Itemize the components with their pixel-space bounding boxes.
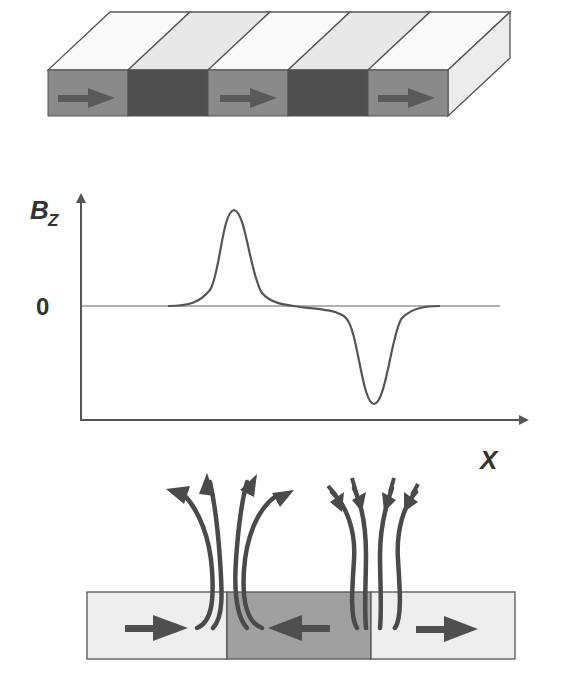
slab-front-domain-2 [128,70,208,116]
bz-curve [168,210,440,404]
slab-front-domain-3 [208,70,288,116]
field-arrowheads-outgoing-icon [166,473,294,507]
field-arrowheads-incoming-icon [328,478,418,512]
y-axis-label: B [30,195,49,225]
slab-front-domain-4 [288,70,368,116]
cross-section [87,473,515,659]
domain-figure: B Z 0 X [0,0,574,690]
zero-tick-label: 0 [36,293,49,320]
bz-plot: B Z 0 X [30,195,527,475]
x-axis-label: X [478,445,499,475]
domain-slab [48,12,510,116]
cross-section-domain-right [371,592,515,659]
y-axis-label-subscript: Z [47,211,59,230]
